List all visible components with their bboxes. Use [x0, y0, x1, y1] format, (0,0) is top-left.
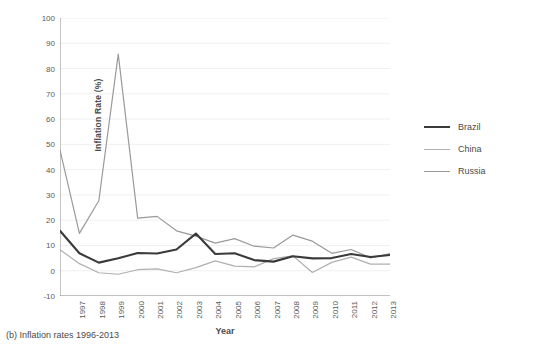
y-tick-label: 30 [46, 190, 55, 199]
x-tick-label: 1997 [78, 301, 87, 319]
legend-label: Russia [458, 166, 486, 176]
figure-caption: (b) Inflation rates 1996-2013 [6, 330, 119, 340]
legend-swatch-china [424, 149, 450, 150]
x-tick-label: 2013 [389, 301, 398, 319]
x-tick-label: 2006 [253, 301, 262, 319]
x-tick-label: 2007 [272, 301, 281, 319]
legend-swatch-russia [424, 171, 450, 172]
x-tick-label: 1999 [117, 301, 126, 319]
x-tick-label: 2001 [156, 301, 165, 319]
x-tick-label: 2002 [175, 301, 184, 319]
series-line-russia [60, 54, 390, 258]
plot-area: -100102030405060708090100 19971998199920… [60, 18, 390, 296]
y-tick-label: 60 [46, 115, 55, 124]
series-lines [60, 54, 390, 274]
y-tick-label: 0 [51, 266, 55, 275]
x-tick-label: 2005 [233, 301, 242, 319]
y-tick-label: 100 [42, 14, 55, 23]
y-tick-label: 10 [46, 241, 55, 250]
x-tick-label: 2003 [194, 301, 203, 319]
legend-item-russia[interactable]: Russia [424, 160, 534, 182]
legend-item-china[interactable]: China [424, 138, 534, 160]
y-tick-label: 80 [46, 64, 55, 73]
x-tick-label: 2009 [311, 301, 320, 319]
line-chart-svg [60, 18, 390, 296]
y-tick-label: 70 [46, 89, 55, 98]
legend-item-brazil[interactable]: Brazil [424, 116, 534, 138]
legend-label: China [458, 144, 482, 154]
figure-container: -100102030405060708090100 19971998199920… [0, 0, 539, 350]
y-tick-label: 90 [46, 39, 55, 48]
x-tick-label: 2011 [350, 301, 359, 318]
x-tick-label: 1998 [97, 301, 106, 319]
legend-swatch-brazil [424, 126, 450, 128]
chart-legend: BrazilChinaRussia [424, 116, 534, 182]
x-tick-label: 2010 [330, 301, 339, 319]
x-tick-label: 2004 [214, 301, 223, 319]
y-tick-label: -10 [43, 292, 55, 301]
series-line-brazil [60, 231, 390, 263]
y-tick-label: 20 [46, 216, 55, 225]
y-axis-title: Inflation Rate (%) [93, 35, 103, 195]
x-tick-label: 2012 [369, 301, 378, 319]
y-tick-label: 40 [46, 165, 55, 174]
x-tick-label: 2000 [136, 301, 145, 319]
y-tick-label: 50 [46, 140, 55, 149]
x-tick-label: 2008 [291, 301, 300, 319]
legend-label: Brazil [458, 122, 481, 132]
